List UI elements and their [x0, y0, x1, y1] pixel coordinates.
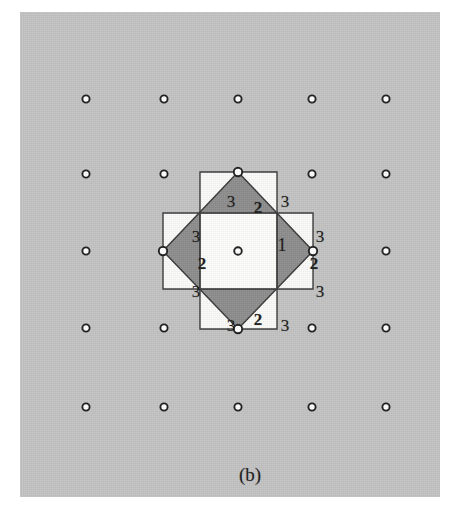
lattice-point	[82, 324, 89, 331]
lattice-point	[382, 403, 389, 410]
lattice-point	[382, 324, 389, 331]
lattice-point	[308, 170, 315, 177]
lattice-point	[82, 95, 89, 102]
region-label-2-bottom: 2	[254, 311, 263, 328]
lattice-point	[160, 170, 167, 177]
figure-caption: (b)	[239, 464, 261, 486]
lattice-point	[160, 324, 167, 331]
lattice-point	[159, 247, 167, 255]
lattice-point	[160, 95, 167, 102]
region-label-2-top: 2	[254, 199, 263, 216]
region-label-3-right-top: 3	[316, 228, 325, 245]
region-label-3-right-bottom: 3	[316, 283, 325, 300]
region-label-1: 1	[278, 236, 287, 254]
lattice-point	[82, 403, 89, 410]
lattice-point-grid	[82, 95, 389, 410]
lattice-point	[308, 403, 315, 410]
region-label-3-top-left: 3	[227, 193, 236, 210]
lattice-point	[382, 170, 389, 177]
lattice-point	[308, 95, 315, 102]
lattice-point	[382, 247, 389, 254]
region-label-3-bottom-left: 3	[227, 317, 236, 334]
lattice-diagram	[20, 12, 440, 497]
figure-panel-b: 1 2 2 2 2 3 3 3 3 3 3 3 3 (b)	[0, 0, 455, 510]
region-label-3-left-top: 3	[192, 228, 201, 245]
figure-plate: 1 2 2 2 2 3 3 3 3 3 3 3 3 (b)	[20, 12, 440, 497]
lattice-point	[382, 95, 389, 102]
region-label-3-top-right: 3	[281, 193, 290, 210]
lattice-point	[234, 168, 242, 176]
region-label-3-bottom-right: 3	[281, 317, 290, 334]
lattice-point	[234, 403, 241, 410]
lattice-point	[234, 95, 241, 102]
lattice-point-origin	[234, 247, 242, 255]
lattice-point	[160, 403, 167, 410]
region-label-2-right: 2	[310, 255, 319, 272]
lattice-point	[308, 324, 315, 331]
region-label-3-left-bottom: 3	[192, 283, 201, 300]
lattice-point	[82, 170, 89, 177]
lattice-point	[82, 247, 89, 254]
region-label-2-left: 2	[198, 255, 207, 272]
